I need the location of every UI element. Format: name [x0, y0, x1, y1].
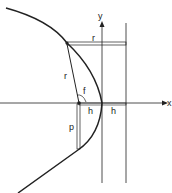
- parabola-curve: [6, 8, 102, 193]
- distance-bar-r: [67, 42, 126, 45]
- parabola-diagram: x y r r f h h p: [0, 0, 172, 193]
- label-h-right: h: [111, 106, 116, 116]
- y-axis-arrow-icon: [100, 21, 105, 27]
- distance-bar-p: [77, 104, 80, 149]
- x-axis-label: x: [167, 98, 172, 108]
- label-h-left: h: [88, 106, 93, 116]
- y-axis-label: y: [98, 11, 103, 21]
- label-p: p: [69, 122, 74, 132]
- label-f: f: [83, 86, 86, 96]
- label-r-top: r: [92, 33, 95, 43]
- curve-point: [65, 41, 68, 44]
- label-r-radius: r: [64, 71, 67, 81]
